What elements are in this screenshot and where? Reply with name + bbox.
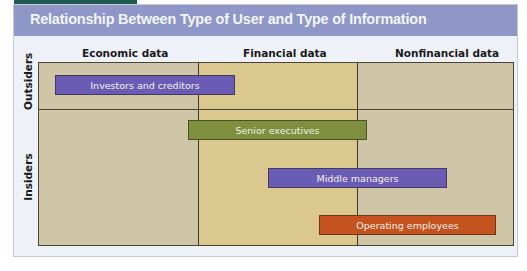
- bar-senior-executives: Senior executives: [188, 120, 367, 140]
- column-header-nonfinancial: Nonfinancial data: [395, 47, 499, 59]
- column-header-economic: Economic data: [82, 47, 168, 59]
- row-divider: [39, 109, 513, 110]
- row-label-insiders: Insiders: [22, 152, 34, 202]
- row-label-outsiders: Outsiders: [22, 60, 34, 110]
- bar-middle-managers: Middle managers: [268, 168, 447, 188]
- column-header-financial: Financial data: [243, 47, 327, 59]
- figure-title: Relationship Between Type of User and Ty…: [30, 10, 427, 28]
- bar-operating-employees: Operating employees: [319, 215, 496, 235]
- bar-investors-and-creditors: Investors and creditors: [55, 75, 235, 95]
